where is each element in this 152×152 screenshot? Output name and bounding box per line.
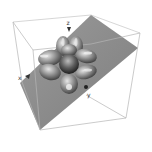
x-axis-label: x	[18, 74, 22, 81]
z-axis-label: z	[67, 19, 70, 26]
highlight	[40, 55, 48, 58]
highlight	[66, 84, 72, 90]
highlight	[84, 52, 92, 55]
core-sphere	[59, 54, 79, 74]
3d-scene: z x y	[0, 0, 152, 152]
z-axis-marker: z	[67, 19, 72, 32]
highlight	[84, 69, 92, 72]
highlight	[62, 38, 65, 46]
y-axis-label: y	[87, 91, 91, 99]
highlight	[75, 38, 78, 46]
